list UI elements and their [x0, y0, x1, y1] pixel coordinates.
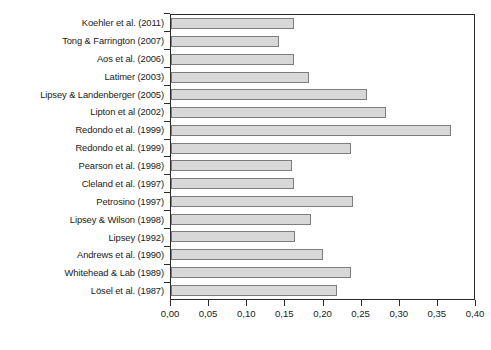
y-tick-slot	[163, 196, 170, 207]
plot-area	[170, 14, 475, 300]
x-tick-mark	[208, 300, 209, 306]
y-tick-slot	[163, 286, 170, 297]
bar	[171, 267, 351, 278]
category-label: Lipsey & Wilson (1998)	[0, 215, 168, 225]
bar-row	[171, 196, 474, 207]
bar	[171, 160, 292, 171]
bar	[171, 249, 323, 260]
bar	[171, 18, 294, 29]
bar	[171, 178, 294, 189]
bar-row	[171, 285, 474, 296]
x-tick-label: 0,25	[351, 308, 370, 319]
category-label: Redondo et al. (1999)	[0, 125, 168, 135]
y-tick-slot	[163, 89, 170, 100]
bar-row	[171, 160, 474, 171]
category-label: Lösel et al. (1987)	[0, 286, 168, 296]
category-label: Lipton et al (2002)	[0, 107, 168, 117]
bar-row	[171, 249, 474, 260]
y-tick-slot	[163, 53, 170, 64]
category-label: Tong & Farrington (2007)	[0, 36, 168, 46]
x-tick-label: 0,30	[389, 308, 408, 319]
x-tick-mark	[323, 300, 324, 306]
x-tick-label: 0,10	[237, 308, 256, 319]
x-axis-tick-marks	[170, 300, 475, 308]
x-tick-mark	[475, 300, 476, 306]
bar-row	[171, 72, 474, 83]
category-label: Lipsey (1992)	[0, 233, 168, 243]
category-label: Latimer (2003)	[0, 72, 168, 82]
x-tick-label: 0,00	[161, 308, 180, 319]
x-tick-mark	[361, 300, 362, 306]
y-tick-slot	[163, 268, 170, 279]
x-tick-mark	[170, 300, 171, 306]
x-tick-label: 0,40	[466, 308, 485, 319]
x-tick-label: 0,15	[275, 308, 294, 319]
category-label: Pearson et al. (1998)	[0, 161, 168, 171]
bar-chart: Koehler et al. (2011)Tong & Farrington (…	[0, 0, 491, 350]
y-tick-slot	[163, 125, 170, 136]
bar-row	[171, 267, 474, 278]
bar	[171, 196, 353, 207]
category-label: Andrews et al. (1990)	[0, 250, 168, 260]
x-tick-label: 0,20	[313, 308, 332, 319]
y-tick-slot	[163, 160, 170, 171]
bar	[171, 72, 309, 83]
y-tick-slot	[163, 232, 170, 243]
y-tick-slot	[163, 35, 170, 46]
y-tick-slot	[163, 178, 170, 189]
y-tick-slot	[163, 17, 170, 28]
category-label-column: Koehler et al. (2011)Tong & Farrington (…	[0, 14, 168, 300]
y-tick-slot	[163, 250, 170, 261]
x-axis-tick-labels: 0,000,050,100,150,200,250,300,350,40	[170, 308, 475, 324]
x-tick-label: 0,05	[199, 308, 218, 319]
bar-row	[171, 231, 474, 242]
category-label: Redondo et al. (1999)	[0, 143, 168, 153]
y-axis-tick-marks	[163, 14, 170, 300]
category-label: Lipsey & Landenberger (2005)	[0, 90, 168, 100]
bar-row	[171, 214, 474, 225]
x-tick-label: 0,35	[428, 308, 447, 319]
y-tick-slot	[163, 214, 170, 225]
bar	[171, 54, 294, 65]
bar-row	[171, 143, 474, 154]
bars-layer	[171, 15, 474, 299]
bar-row	[171, 18, 474, 29]
y-tick-slot	[163, 143, 170, 154]
bar	[171, 285, 337, 296]
bar	[171, 143, 351, 154]
bar	[171, 214, 311, 225]
category-label: Aos et al. (2006)	[0, 54, 168, 64]
bar-row	[171, 107, 474, 118]
category-label: Petrosino (1997)	[0, 197, 168, 207]
bar	[171, 36, 279, 47]
x-tick-mark	[437, 300, 438, 306]
bar-row	[171, 89, 474, 100]
bar	[171, 89, 367, 100]
bar-row	[171, 178, 474, 189]
bar-row	[171, 54, 474, 65]
bar	[171, 125, 451, 136]
category-label: Koehler et al. (2011)	[0, 18, 168, 28]
category-label: Cleland et al. (1997)	[0, 179, 168, 189]
bar	[171, 231, 295, 242]
bar	[171, 107, 386, 118]
bar-row	[171, 125, 474, 136]
y-tick-slot	[163, 71, 170, 82]
category-label: Whitehead & Lab (1989)	[0, 268, 168, 278]
x-tick-mark	[399, 300, 400, 306]
bar-row	[171, 36, 474, 47]
y-tick-slot	[163, 107, 170, 118]
x-tick-mark	[284, 300, 285, 306]
x-tick-mark	[246, 300, 247, 306]
